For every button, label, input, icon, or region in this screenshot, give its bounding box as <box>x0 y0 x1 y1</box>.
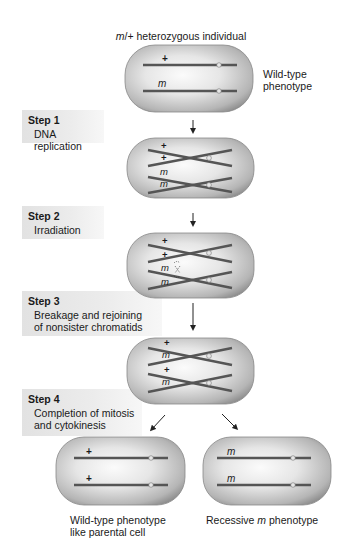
allele-label: m <box>161 276 169 287</box>
cell-heterozygous <box>125 45 253 112</box>
allele-label: + <box>162 249 168 260</box>
outcome-right-suffix: phenotype <box>266 514 318 526</box>
allele-label: + <box>164 337 170 348</box>
allele-label: m <box>161 262 169 273</box>
daughter-cell-wild-type <box>56 437 185 505</box>
outcome-left-line1: Wild-type phenotype <box>70 514 166 526</box>
allele-label: + <box>86 446 92 457</box>
allele-label: + <box>161 152 167 163</box>
cell-recombined <box>127 338 254 404</box>
outcome-wild-type-label: Wild-type phenotype like parental cell <box>70 514 166 538</box>
allele-label: + <box>164 364 170 375</box>
outcome-right-allele: m <box>257 514 266 526</box>
arrow-down-left-icon <box>152 415 165 429</box>
diagram-graphics <box>0 0 344 543</box>
allele-label: m <box>162 349 170 360</box>
outcome-left-line2: like parental cell <box>70 526 166 538</box>
cell-irradiated <box>127 233 254 298</box>
outcome-recessive-label: Recessive m phenotype <box>206 514 318 526</box>
outcome-right-prefix: Recessive <box>206 514 257 526</box>
allele-label: m <box>227 446 235 457</box>
allele-label: m <box>160 166 168 177</box>
daughter-cell-recessive <box>203 437 331 505</box>
allele-label: + <box>162 53 168 64</box>
allele-label: m <box>158 78 166 89</box>
arrow-down-right-icon <box>222 414 236 428</box>
allele-label: m <box>162 376 170 387</box>
allele-label: + <box>86 473 92 484</box>
allele-label: m <box>160 178 168 189</box>
allele-label: m <box>227 473 235 484</box>
allele-label: + <box>161 140 167 151</box>
allele-label: + <box>162 235 168 246</box>
cell-replicated <box>127 138 254 198</box>
